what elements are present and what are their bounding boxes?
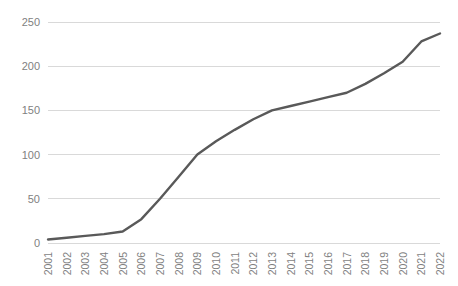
x-tick-label: 2021: [415, 252, 427, 276]
x-tick-label: 2008: [173, 252, 185, 276]
x-tick-label: 2001: [42, 252, 54, 276]
y-tick-label: 250: [22, 16, 40, 28]
y-tick-label: 50: [28, 193, 40, 205]
y-tick-label: 200: [22, 60, 40, 72]
x-tick-label: 2017: [341, 252, 353, 276]
x-tick-label: 2011: [229, 252, 241, 275]
x-tick-label: 2013: [266, 252, 278, 276]
x-tick-label: 2007: [154, 252, 166, 276]
x-tick-label: 2006: [135, 252, 147, 276]
y-tick-label: 150: [22, 104, 40, 116]
x-tick-label: 2014: [285, 252, 297, 276]
x-tick-label: 2002: [61, 252, 73, 276]
y-tick-label: 0: [34, 237, 40, 249]
x-axis-tick-labels: 2001200220032004200520062007200820092010…: [42, 252, 446, 276]
x-tick-label: 2004: [98, 252, 110, 276]
line-chart: 050100150200250 200120022003200420052006…: [0, 0, 458, 286]
x-tick-label: 2010: [210, 252, 222, 276]
x-tick-label: 2003: [79, 252, 91, 276]
x-tick-label: 2020: [397, 252, 409, 276]
x-tick-label: 2005: [117, 252, 129, 276]
y-tick-label: 100: [22, 149, 40, 161]
x-tick-label: 2012: [247, 252, 259, 276]
x-tick-label: 2019: [378, 252, 390, 276]
x-tick-label: 2015: [303, 252, 315, 276]
x-tick-label: 2009: [191, 252, 203, 276]
x-tick-label: 2018: [359, 252, 371, 276]
series-line-0: [48, 33, 440, 239]
chart-canvas: 050100150200250 200120022003200420052006…: [0, 0, 458, 286]
x-tick-label: 2016: [322, 252, 334, 276]
x-tick-label: 2022: [434, 252, 446, 276]
data-series-group: [48, 33, 440, 239]
gridlines-group: [48, 22, 440, 243]
y-axis-tick-labels: 050100150200250: [22, 16, 40, 249]
